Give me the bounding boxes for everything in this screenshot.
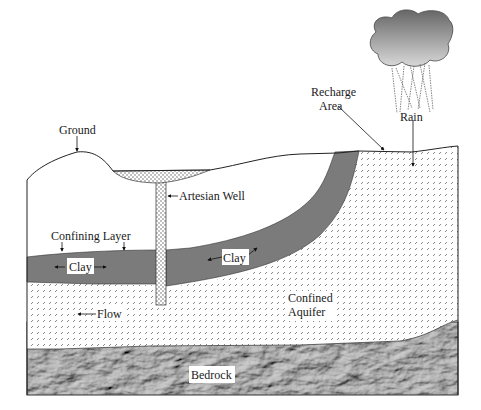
label-clay-left: Clay bbox=[69, 260, 92, 274]
label-area: Area bbox=[319, 99, 343, 113]
rain-cloud-icon bbox=[370, 10, 453, 113]
artesian-aquifer-diagram: Ground Artesian Well Recharge Area Rain … bbox=[0, 0, 481, 410]
label-clay-right: Clay bbox=[223, 251, 246, 265]
label-flow: Flow bbox=[97, 307, 122, 321]
label-confined: Confined bbox=[288, 291, 333, 305]
label-ground: Ground bbox=[59, 123, 96, 137]
label-rain: Rain bbox=[400, 110, 423, 124]
recharge-area-arrow bbox=[338, 106, 384, 150]
label-confining-layer: Confining Layer bbox=[51, 229, 131, 243]
label-bedrock: Bedrock bbox=[191, 368, 232, 382]
label-artesian-well: Artesian Well bbox=[179, 189, 245, 203]
label-recharge: Recharge bbox=[311, 85, 356, 99]
artesian-well-pipe bbox=[156, 181, 166, 305]
label-aquifer: Aquifer bbox=[288, 305, 325, 319]
well-discharge-pool bbox=[113, 170, 210, 183]
